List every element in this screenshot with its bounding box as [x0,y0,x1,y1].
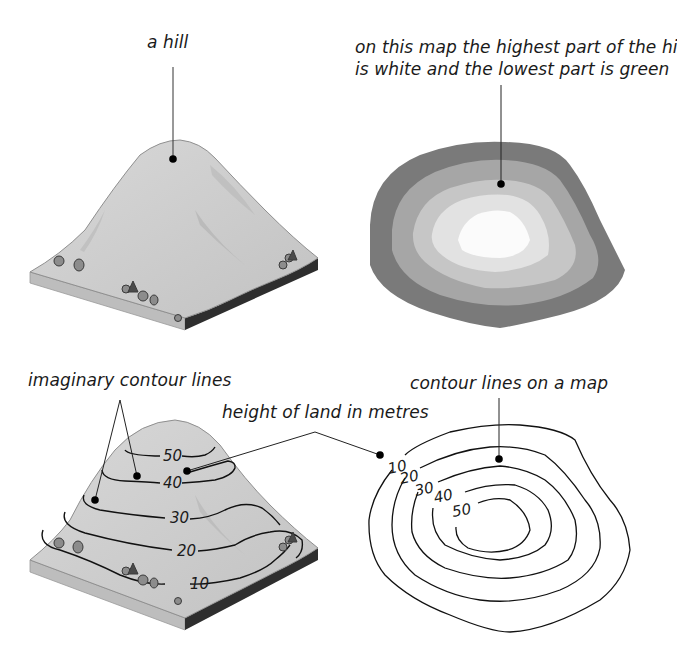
contour-pointer-dot-1 [91,496,99,504]
contour-map-pointer-dot [495,455,503,463]
diagram-canvas: 50 40 30 20 10 [0,0,677,645]
svg-text:40: 40 [163,474,182,492]
svg-text:10: 10 [190,575,209,593]
svg-text:30: 30 [170,509,189,527]
height-pointer-dot [183,467,191,475]
hill-illustration [30,67,318,330]
layered-map-pointer-dot [497,180,505,188]
svg-text:50: 50 [163,447,182,465]
layered-height-map [370,85,625,328]
hill-with-contours: 50 40 30 20 10 [30,400,384,630]
hill-pointer-dot [169,155,177,163]
svg-text:50: 50 [451,500,473,521]
height-map-pointer-dot [376,451,384,459]
svg-text:20: 20 [177,542,196,560]
contour-pointer-dot-2 [133,472,141,480]
